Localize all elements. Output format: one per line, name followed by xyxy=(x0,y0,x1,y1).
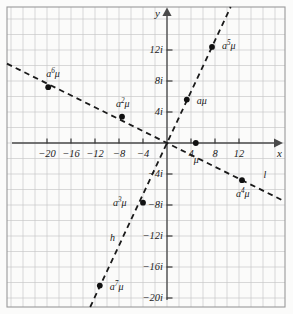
point-label: a4μ xyxy=(236,188,250,199)
y-axis-label: y xyxy=(155,8,160,19)
y-tick-label: 4i xyxy=(135,107,163,118)
data-point-marker xyxy=(97,283,103,289)
point-label: aμ xyxy=(197,96,207,106)
data-point-marker xyxy=(119,114,125,120)
data-point-marker xyxy=(239,177,245,183)
line-label-l: l xyxy=(264,170,267,180)
x-tick-label: 12 xyxy=(228,149,250,160)
point-label: μ xyxy=(194,155,199,165)
point-label: a6μ xyxy=(46,68,60,79)
point-label: a2μ xyxy=(116,98,130,109)
x-tick-label: −4 xyxy=(132,149,154,160)
x-axis-label: x xyxy=(277,148,282,159)
x-tick-label: −16 xyxy=(60,149,82,160)
y-tick-label: −16i xyxy=(135,262,163,273)
y-tick-label: −20i xyxy=(135,293,163,304)
y-tick-label: −8i xyxy=(135,200,163,211)
point-label: a5μ xyxy=(222,40,236,51)
data-point-marker xyxy=(193,140,199,146)
data-point-marker xyxy=(45,84,51,90)
x-tick-label: −12 xyxy=(84,149,106,160)
point-label: a3μ xyxy=(113,197,127,208)
x-tick-label: 8 xyxy=(204,149,226,160)
line-label-h: h xyxy=(110,233,115,243)
figure-plot: −20−16−12−8−44812 12i8i4i−4i−8i−12i−16i−… xyxy=(0,0,293,314)
y-tick-label: −4i xyxy=(135,169,163,180)
point-label: a7μ xyxy=(110,281,124,292)
data-point-marker xyxy=(184,97,190,103)
y-tick-label: 12i xyxy=(135,45,163,56)
data-point-marker xyxy=(209,44,215,50)
x-tick-label: −8 xyxy=(108,149,130,160)
x-tick-label: −20 xyxy=(36,149,58,160)
y-tick-label: −12i xyxy=(135,231,163,242)
y-tick-label: 8i xyxy=(135,76,163,87)
